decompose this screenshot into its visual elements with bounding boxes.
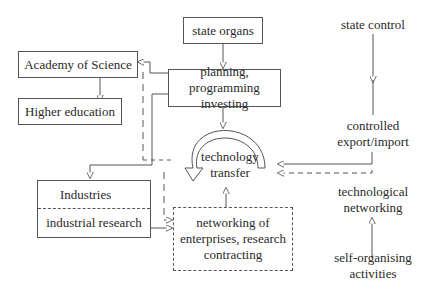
academy-of-science-box: Academy of Science bbox=[18, 51, 138, 78]
state-organs-box: state organs bbox=[183, 17, 263, 44]
planning-label-line2: investing bbox=[201, 96, 249, 112]
planning-box: planning, programming investing bbox=[168, 69, 281, 107]
networking-box: networking of enterprises, research cont… bbox=[173, 207, 293, 271]
networking-label-line2: enterprises, research bbox=[180, 231, 286, 247]
self-organising-activities-label: self-organising activities bbox=[325, 250, 421, 282]
industries-label: Industries bbox=[38, 181, 150, 208]
networking-label-line3: contracting bbox=[204, 247, 262, 263]
technology-transfer-label: technology transfer bbox=[200, 149, 260, 181]
higher-education-box: Higher education bbox=[18, 98, 122, 125]
planning-label-line1: planning, programming bbox=[169, 64, 280, 96]
state-organs-label: state organs bbox=[192, 23, 254, 39]
networking-label-line1: networking of bbox=[196, 215, 269, 231]
technological-networking-label: technological networking bbox=[330, 184, 416, 216]
higher-education-label: Higher education bbox=[25, 104, 115, 120]
controlled-export-import-label: controlled export/import bbox=[330, 118, 416, 150]
industries-box: Industries industrial research bbox=[37, 180, 151, 238]
state-control-label: state control bbox=[330, 17, 416, 33]
academy-label: Academy of Science bbox=[24, 57, 132, 73]
industrial-research-label: industrial research bbox=[38, 209, 150, 237]
